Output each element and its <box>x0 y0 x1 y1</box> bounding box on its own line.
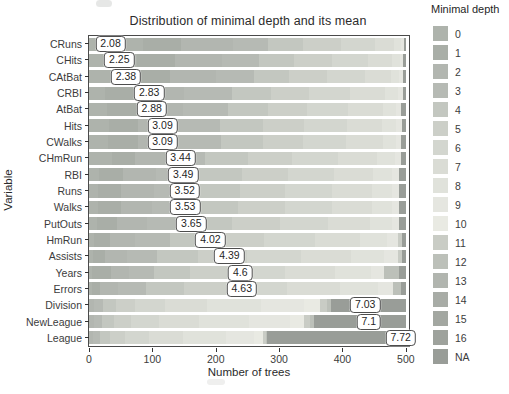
y-axis-label: CRuns <box>50 38 82 50</box>
x-tick-label: 300 <box>270 353 288 365</box>
bar-segment <box>129 266 154 279</box>
bar-segment <box>123 168 156 181</box>
bar-segment <box>377 152 395 165</box>
bar-segment <box>232 217 280 230</box>
legend-swatch <box>433 83 448 98</box>
stacked-bar <box>89 233 409 246</box>
bar-segment <box>121 201 153 214</box>
bar-segment <box>290 315 304 328</box>
legend-item: 9 <box>431 195 509 214</box>
legend-label: 11 <box>455 237 466 249</box>
bar-segment <box>392 201 400 214</box>
bar-segment <box>402 119 406 132</box>
bar-row <box>89 233 409 246</box>
stacked-bar <box>89 217 409 230</box>
legend-swatch <box>433 216 448 231</box>
legend-item: 7 <box>431 157 509 176</box>
legend-swatch <box>433 26 448 41</box>
bar-segment <box>392 217 400 230</box>
bar-segment <box>285 184 332 197</box>
bar-segment <box>92 266 111 279</box>
legend-item: 2 <box>431 62 509 81</box>
bar-segment <box>373 168 392 181</box>
x-axis-tick <box>216 348 217 352</box>
stacked-bar <box>89 168 409 181</box>
legend-label: 16 <box>455 332 467 344</box>
legend-swatch <box>433 330 448 345</box>
y-axis-tick <box>85 337 89 338</box>
bar-segment <box>89 152 112 165</box>
x-axis-tick <box>152 348 153 352</box>
bar-segment <box>301 250 352 263</box>
y-axis-tick <box>85 190 89 191</box>
bar-segment <box>135 233 170 246</box>
bar-segment <box>350 87 385 100</box>
legend-swatch <box>433 273 448 288</box>
bar-segment <box>89 135 108 148</box>
bar-row <box>89 250 409 263</box>
bar-segment <box>116 299 135 312</box>
bar-segment <box>221 135 263 148</box>
legend-item: 5 <box>431 119 509 138</box>
bar-segment <box>94 299 103 312</box>
y-axis-tick <box>85 206 89 207</box>
bar-segment <box>249 315 290 328</box>
bar-segment <box>285 201 332 214</box>
bar-segment <box>89 168 99 181</box>
y-axis-label: HmRun <box>46 234 82 246</box>
legend-swatch <box>433 197 448 212</box>
y-axis-label: RBI <box>64 169 82 181</box>
bar-segment <box>194 184 240 197</box>
bar-segment <box>304 119 347 132</box>
bar-segment <box>131 315 159 328</box>
y-axis-tick <box>85 108 89 109</box>
bar-segment <box>346 135 383 148</box>
bar-segment <box>320 299 327 312</box>
legend-label: 9 <box>455 199 461 211</box>
y-axis-tick <box>85 321 89 322</box>
bar-segment <box>111 266 129 279</box>
bar-segment <box>384 250 398 263</box>
bar-segment <box>303 135 346 148</box>
legend-label: 4 <box>455 104 461 116</box>
bar-segment <box>372 201 392 214</box>
bar-segment <box>382 119 396 132</box>
bar-segment <box>372 184 392 197</box>
x-tick-label: 500 <box>397 353 415 365</box>
legend-title: Minimal depth <box>431 3 509 15</box>
bar-segment <box>146 282 184 295</box>
bar-segment <box>365 70 390 83</box>
bar-segment <box>89 103 107 116</box>
min-depth-distribution-chart: Distribution of minimal depth and its me… <box>0 0 509 394</box>
y-axis-label: Assists <box>49 250 82 262</box>
legend-item: 15 <box>431 309 509 328</box>
bar-segment <box>240 184 286 197</box>
bar-row <box>89 119 409 132</box>
bar-segment <box>137 54 175 67</box>
bar-segment <box>294 54 332 67</box>
bar-segment <box>334 168 373 181</box>
stacked-bar <box>89 184 409 197</box>
bar-segment <box>392 168 400 181</box>
legend-item: 10 <box>431 214 509 233</box>
y-axis-label: NewLeague <box>26 316 82 328</box>
bar-segment <box>100 282 118 295</box>
y-axis-tick <box>85 239 89 240</box>
mean-depth-label: 7.1 <box>357 314 382 330</box>
mean-depth-label: 3.44 <box>165 150 195 166</box>
bar-segment <box>348 103 383 116</box>
legend-swatch <box>433 140 448 155</box>
y-axis-tick <box>85 288 89 289</box>
bar-segment <box>292 152 338 165</box>
mean-depth-label: 3.09 <box>147 118 177 134</box>
bar-segment <box>184 282 232 295</box>
y-axis-label: Hits <box>64 120 82 132</box>
bar-segment <box>254 70 289 83</box>
mean-depth-label: 4.63 <box>227 281 257 297</box>
bar-segment <box>197 168 243 181</box>
y-axis-tick <box>85 272 89 273</box>
mean-depth-label: 7.03 <box>350 297 380 313</box>
bar-segment <box>184 87 232 100</box>
bar-segment <box>383 103 396 116</box>
bar-row <box>89 201 409 214</box>
